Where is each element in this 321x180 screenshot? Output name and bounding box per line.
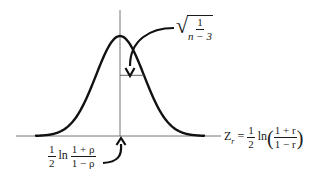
half-denominator: 2 xyxy=(247,138,255,150)
mean-ln-function: ln xyxy=(59,148,68,162)
mean-arrowhead xyxy=(117,138,126,145)
sd-numerator: 1 xyxy=(196,17,204,30)
equals-sign: = xyxy=(237,129,244,143)
rho-denominator: 1 − ρ xyxy=(71,157,96,169)
sqrt-expression: √ 1 n − 3 xyxy=(176,15,213,42)
sd-fraction: 1 n − 3 xyxy=(187,17,213,42)
mean-label: 1 2 ln 1 + ρ 1 − ρ xyxy=(48,144,96,169)
sd-arrowhead xyxy=(126,68,135,76)
mean-half-fraction: 1 2 xyxy=(48,144,56,169)
rho-numerator: 1 + ρ xyxy=(71,144,96,157)
r-denominator: 1 − r xyxy=(274,138,297,150)
mean-pointer-arrow xyxy=(103,144,121,163)
open-paren: ( xyxy=(267,127,274,149)
ln-function: ln xyxy=(258,129,267,143)
half-numerator: 1 xyxy=(247,125,255,138)
r-numerator: 1 + r xyxy=(274,125,297,138)
half-fraction: 1 2 xyxy=(247,125,255,150)
mean-half-denominator: 2 xyxy=(48,157,56,169)
close-paren: ) xyxy=(297,127,304,149)
x-axis-label: Zr = 1 2 ln( 1 + r 1 − r ) xyxy=(224,125,303,150)
sd-denominator: n − 3 xyxy=(187,30,213,42)
mean-half-numerator: 1 xyxy=(48,144,56,157)
sd-label: √ 1 n − 3 xyxy=(176,15,213,42)
z-subscript: r xyxy=(231,137,234,146)
rho-fraction: 1 + ρ 1 − ρ xyxy=(71,144,96,169)
r-fraction: 1 + r 1 − r xyxy=(274,125,297,150)
